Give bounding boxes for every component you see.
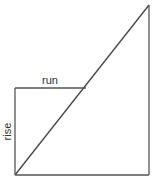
slope-diagram-svg [0, 0, 155, 183]
run-label: run [42, 75, 58, 86]
rise-label: rise [2, 120, 13, 144]
slope-diagram: run rise [0, 0, 155, 183]
hypotenuse-line [15, 5, 149, 175]
